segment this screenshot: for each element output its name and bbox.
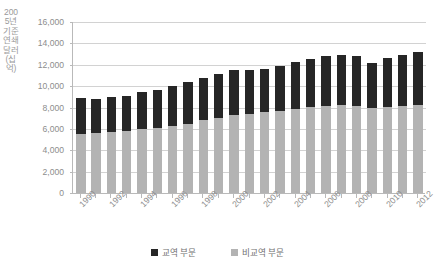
bar-column (367, 22, 377, 193)
bar-series (73, 22, 426, 193)
bar-segment-tradable (229, 70, 239, 115)
bar-segment-nontradable (76, 134, 86, 193)
bar-segment-tradable (352, 56, 362, 106)
bar-segment-tradable (214, 74, 224, 117)
bar-column (245, 22, 255, 193)
bar-column (383, 22, 393, 193)
y-tick-label: 2,000 (42, 167, 64, 177)
bar-segment-tradable (183, 82, 193, 124)
bar-column (137, 22, 147, 193)
bar-column (183, 22, 193, 193)
legend-label-nontradable: 비교역 부문 (242, 246, 284, 258)
bar-segment-nontradable (367, 108, 377, 194)
bar-segment-tradable (199, 78, 209, 120)
legend-label-tradable: 교역 부문 (162, 246, 196, 258)
bar-segment-nontradable (413, 105, 423, 193)
bar-segment-tradable (76, 98, 86, 133)
bar-column (229, 22, 239, 193)
bar-segment-tradable (245, 70, 255, 114)
bar-segment-nontradable (306, 107, 316, 193)
y-tick-label: 4,000 (42, 145, 64, 155)
y-tick-label: 8,000 (42, 103, 64, 113)
bar-segment-tradable (260, 69, 270, 113)
bar-column (291, 22, 301, 193)
y-tick-label: 16,000 (38, 17, 64, 27)
bar-column (214, 22, 224, 193)
bar-column (76, 22, 86, 193)
bar-column (321, 22, 331, 193)
bar-segment-nontradable (383, 107, 393, 193)
bar-segment-nontradable (398, 106, 408, 193)
bar-segment-nontradable (291, 109, 301, 193)
y-axis-labels: 02,0004,0006,0008,00010,00012,00014,0001… (0, 0, 70, 200)
bar-column (107, 22, 117, 193)
bar-segment-tradable (168, 86, 178, 126)
bar-column (398, 22, 408, 193)
bar-segment-tradable (122, 96, 132, 131)
y-tick-label: 6,000 (42, 124, 64, 134)
bar-segment-nontradable (183, 124, 193, 193)
bar-segment-tradable (107, 97, 117, 132)
bar-segment-nontradable (352, 106, 362, 193)
chart-container: 2005년 기준 연쇄달러 (십억) 02,0004,0006,0008,000… (0, 0, 435, 275)
bar-segment-tradable (306, 59, 316, 107)
bar-segment-tradable (413, 52, 423, 105)
y-tick-label: 12,000 (38, 60, 64, 70)
bar-column (199, 22, 209, 193)
bar-segment-nontradable (168, 126, 178, 193)
bar-column (260, 22, 270, 193)
bar-segment-tradable (153, 90, 163, 128)
bar-segment-nontradable (275, 111, 285, 193)
bar-column (352, 22, 362, 193)
chart-legend: 교역 부문 비교역 부문 (0, 246, 435, 258)
bar-column (153, 22, 163, 193)
bar-column (306, 22, 316, 193)
bar-column (122, 22, 132, 193)
bar-segment-nontradable (122, 131, 132, 193)
bar-segment-tradable (321, 56, 331, 106)
y-tick-label: 14,000 (38, 38, 64, 48)
legend-item-tradable: 교역 부문 (151, 246, 196, 258)
y-tick-label: 10,000 (38, 81, 64, 91)
bar-segment-tradable (137, 92, 147, 129)
plot-area (72, 22, 425, 194)
bar-segment-nontradable (321, 106, 331, 193)
bar-segment-nontradable (337, 105, 347, 193)
bar-segment-nontradable (260, 112, 270, 193)
bar-segment-tradable (337, 55, 347, 106)
bar-segment-tradable (275, 66, 285, 111)
bar-segment-nontradable (214, 118, 224, 193)
bar-column (275, 22, 285, 193)
bar-segment-tradable (398, 55, 408, 106)
bar-segment-tradable (291, 62, 301, 109)
bar-segment-nontradable (153, 128, 163, 193)
legend-item-nontradable: 비교역 부문 (231, 246, 284, 258)
bar-segment-nontradable (91, 133, 101, 193)
bar-column (337, 22, 347, 193)
bar-segment-nontradable (107, 132, 117, 193)
bar-segment-nontradable (229, 115, 239, 193)
bar-segment-tradable (91, 99, 101, 133)
bar-column (413, 22, 423, 193)
bar-column (168, 22, 178, 193)
bar-segment-tradable (367, 63, 377, 108)
x-axis-labels: 1990199219941996199820002002200420062008… (0, 196, 435, 236)
legend-swatch-light (231, 249, 238, 256)
bar-segment-nontradable (245, 114, 255, 193)
bar-segment-nontradable (137, 129, 147, 193)
bar-segment-nontradable (199, 120, 209, 193)
bar-column (91, 22, 101, 193)
legend-swatch-dark (151, 249, 158, 256)
bar-segment-tradable (383, 58, 393, 107)
